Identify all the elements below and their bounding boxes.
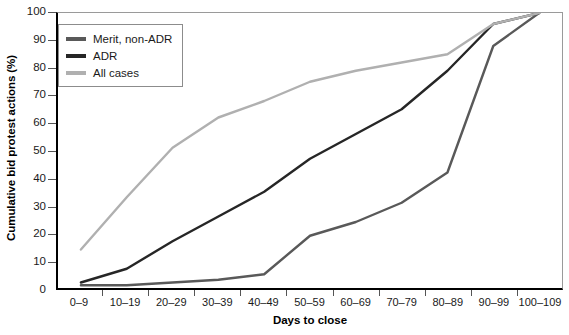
legend-item-label: All cases xyxy=(93,67,139,79)
x-axis-tick-label: 90–99 xyxy=(479,296,510,308)
x-axis-tick-label: 30–39 xyxy=(202,296,233,308)
y-axis-tick-mark xyxy=(48,40,56,41)
y-axis-tick-mark xyxy=(48,123,56,124)
y-axis-tick-mark xyxy=(48,95,56,96)
legend-item: Merit, non-ADR xyxy=(66,30,172,47)
x-axis-tick-mark xyxy=(102,290,103,296)
y-axis-tick-mark xyxy=(48,12,56,13)
y-axis-tick-label: 100 xyxy=(2,5,46,17)
x-axis-tick-mark xyxy=(471,290,472,296)
y-axis-tick-label: 30 xyxy=(2,200,46,212)
x-axis-tick-label: 50–59 xyxy=(294,296,325,308)
legend-swatch-icon xyxy=(66,54,86,58)
chart-legend: Merit, non-ADRADRAll cases xyxy=(58,24,183,87)
line-chart: Cumulative bid protest actions (%) 01020… xyxy=(0,0,569,335)
x-axis-tick-mark xyxy=(333,290,334,296)
legend-item: All cases xyxy=(66,64,172,81)
y-axis-tick-labels: 0102030405060708090100 xyxy=(0,0,46,335)
y-axis-tick-label: 0 xyxy=(2,283,46,295)
x-axis-tick-mark xyxy=(194,290,195,296)
x-axis-tick-label: 0–9 xyxy=(70,296,88,308)
y-axis-tick-label: 20 xyxy=(2,227,46,239)
y-axis-tick-label: 70 xyxy=(2,88,46,100)
y-axis-tick-label: 90 xyxy=(2,33,46,45)
y-axis-tick-mark xyxy=(48,151,56,152)
x-axis-tick-mark xyxy=(379,290,380,296)
y-axis-tick-mark xyxy=(48,179,56,180)
y-axis-tick-mark xyxy=(48,207,56,208)
x-axis-tick-mark xyxy=(286,290,287,296)
x-axis-tick-label: 70–79 xyxy=(386,296,417,308)
x-axis-tick-label: 40–49 xyxy=(248,296,279,308)
y-axis-tick-label: 10 xyxy=(2,255,46,267)
x-axis-tick-label: 60–69 xyxy=(340,296,371,308)
y-axis-tick-label: 60 xyxy=(2,116,46,128)
legend-item: ADR xyxy=(66,47,172,64)
x-axis-tick-mark xyxy=(240,290,241,296)
y-axis-tick-mark xyxy=(48,234,56,235)
y-axis-tick-label: 80 xyxy=(2,61,46,73)
x-axis-tick-label: 10–19 xyxy=(110,296,141,308)
y-axis-tick-label: 50 xyxy=(2,144,46,156)
legend-item-label: Merit, non-ADR xyxy=(93,33,172,45)
legend-item-label: ADR xyxy=(93,50,117,62)
x-axis-tick-label: 20–29 xyxy=(156,296,187,308)
x-axis-tick-mark xyxy=(425,290,426,296)
y-axis-tick-mark xyxy=(48,262,56,263)
legend-swatch-icon xyxy=(66,71,86,75)
y-axis-tick-mark xyxy=(48,68,56,69)
x-axis-title: Days to close xyxy=(55,314,565,326)
x-axis-tick-label: 80–89 xyxy=(432,296,463,308)
y-axis-tick-label: 40 xyxy=(2,172,46,184)
x-axis-tick-label: 100–109 xyxy=(519,296,562,308)
legend-swatch-icon xyxy=(66,37,86,41)
x-axis-tick-mark xyxy=(148,290,149,296)
